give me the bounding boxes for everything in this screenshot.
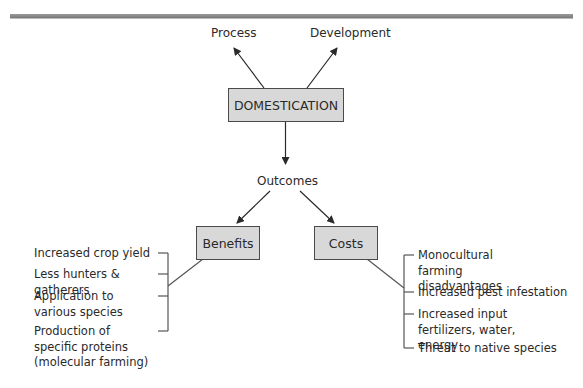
outcomes-label: Outcomes [257,174,318,189]
arrow-to-process [234,48,264,88]
arrow-to-benefits [237,191,270,223]
benefit-item: Application to various species [34,289,144,320]
costs-label: Costs [329,236,363,251]
development-label: Development [310,26,391,41]
arrow-to-development [307,48,337,88]
cost-item: Threat to native species [418,341,578,357]
cost-item: Increased pest infestation [418,285,578,301]
benefits-bracket [158,253,203,331]
benefits-label: Benefits [202,236,253,251]
benefit-item: Production of specific proteins (molecul… [34,324,150,371]
benefit-item: Increased crop yield [34,246,164,262]
benefits-box: Benefits [196,226,260,260]
costs-box: Costs [314,226,378,260]
arrow-to-costs [300,191,334,223]
domestication-box: DOMESTICATION [228,88,344,122]
domestication-label: DOMESTICATION [234,98,338,113]
costs-bracket [367,255,414,348]
process-label: Process [211,26,257,41]
